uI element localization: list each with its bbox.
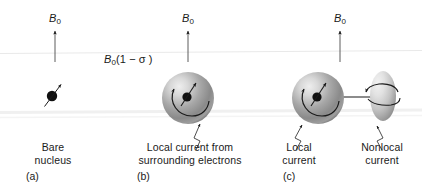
b0-subscript-b: 0 xyxy=(189,17,194,26)
b0-subscript-a: 0 xyxy=(56,17,61,26)
b0-label-a: B0 xyxy=(49,12,61,27)
panel-c-graphics xyxy=(292,31,400,150)
panel-a-graphics xyxy=(45,31,62,107)
nmr-shielding-figure: B0 B0 B0 B0(1 − σ ) Bare nucleus (a) Loc… xyxy=(0,0,422,190)
nonlocal-group-ellipse-c xyxy=(370,71,396,121)
b0-label-c: B0 xyxy=(334,12,346,27)
panel-id-a: (a) xyxy=(26,170,39,182)
caption-c-local-line2: current xyxy=(282,154,315,167)
caption-c-local-line1: Local xyxy=(286,141,312,154)
caption-a-line1: Bare xyxy=(42,141,65,154)
panel-id-b: (b) xyxy=(137,170,150,182)
panel-id-c: (c) xyxy=(283,170,295,182)
caption-c-nonlocal-line2: current xyxy=(365,154,398,167)
caption-a-line2: nucleus xyxy=(35,154,72,167)
panel-b-graphics xyxy=(162,31,214,150)
caption-b-line1: Local current from xyxy=(147,141,233,154)
b0-label-b: B0 xyxy=(182,12,194,27)
caption-c-nonlocal-line1: Nonlocal xyxy=(361,141,403,154)
shielded-field-expression: (1 − σ ) xyxy=(116,53,153,65)
caption-b-line2: surrounding electrons xyxy=(138,154,241,167)
b0-subscript-c: 0 xyxy=(341,17,346,26)
shielded-field-label: B0(1 − σ ) xyxy=(104,53,153,68)
shielded-field-subscript: 0 xyxy=(111,58,116,67)
